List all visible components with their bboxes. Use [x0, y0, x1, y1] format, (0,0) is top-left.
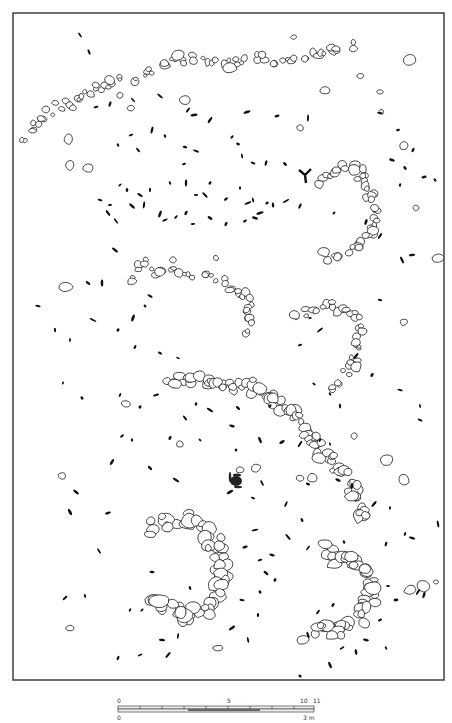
posthole	[229, 424, 235, 428]
posthole	[198, 438, 202, 442]
scattered-stone	[413, 205, 419, 211]
posthole	[157, 93, 163, 99]
scale-label-upper-5: 5	[227, 697, 231, 704]
scattered-stone	[357, 74, 364, 79]
scattered-stone	[249, 377, 256, 382]
wall-stone	[329, 304, 335, 310]
scale-bar-upper	[118, 706, 314, 709]
wall-stone	[334, 380, 341, 386]
posthole	[193, 149, 200, 153]
scattered-stone	[328, 300, 336, 305]
posthole	[236, 142, 241, 146]
posthole	[62, 595, 68, 601]
posthole	[113, 218, 118, 224]
posthole	[251, 197, 254, 202]
posthole	[130, 314, 135, 322]
posthole	[252, 528, 259, 531]
posthole	[116, 143, 120, 147]
wall-stone	[240, 61, 244, 65]
scattered-stone	[400, 319, 407, 325]
posthole	[162, 218, 168, 222]
wall-stone	[174, 269, 183, 278]
scattered-stone	[117, 92, 123, 98]
wall-stone	[118, 78, 122, 81]
scale-label-upper-10: 10	[300, 697, 308, 704]
posthole	[384, 646, 387, 650]
wall-stone	[29, 128, 37, 133]
posthole	[403, 165, 408, 170]
posthole	[284, 501, 289, 508]
southwest-crescent	[144, 509, 233, 626]
scattered-stones-layer	[58, 35, 444, 651]
wall-stone	[356, 314, 362, 320]
posthole	[285, 533, 291, 540]
scattered-stone	[214, 255, 219, 260]
posthole	[176, 356, 180, 359]
posthole	[339, 646, 345, 650]
scale-label-upper-0: 0	[117, 697, 121, 704]
scattered-stone	[400, 142, 408, 150]
posthole	[378, 299, 383, 302]
wall-stone	[51, 113, 55, 117]
posthole	[174, 215, 179, 220]
scattered-stone	[66, 625, 74, 631]
wall-stone	[167, 599, 179, 608]
posthole	[244, 201, 252, 206]
posthole	[257, 613, 260, 617]
posthole	[335, 478, 341, 483]
posthole	[327, 661, 332, 668]
posthole	[329, 442, 332, 446]
posthole	[84, 594, 86, 598]
posthole	[417, 418, 423, 422]
wall-stone	[324, 256, 332, 264]
posthole	[188, 586, 191, 591]
wall-stone	[233, 57, 239, 62]
posthole	[409, 253, 416, 256]
scattered-stone	[297, 125, 304, 131]
wall-stone	[253, 383, 267, 395]
special-features-layer	[229, 169, 311, 488]
wall-stone	[201, 56, 205, 59]
wall-stone	[350, 45, 358, 52]
posthole	[422, 591, 426, 598]
wall-stone	[258, 51, 265, 58]
posthole	[207, 215, 213, 220]
posthole	[135, 147, 140, 153]
posthole	[223, 197, 228, 202]
posthole	[140, 608, 144, 612]
posthole	[297, 440, 303, 447]
posthole	[143, 201, 146, 208]
scale-label-lower-3m: 3 m	[303, 714, 315, 721]
wall-stone	[371, 205, 379, 212]
wall-stone	[289, 311, 299, 319]
posthole	[339, 403, 342, 408]
hearth-feature	[229, 472, 242, 488]
wall-stone	[354, 177, 361, 182]
wall-stone	[202, 272, 208, 278]
posthole	[298, 343, 303, 346]
posthole	[273, 578, 277, 583]
wall-stone	[312, 432, 320, 440]
scattered-stone	[318, 540, 332, 549]
posthole	[168, 435, 172, 440]
wall-stone	[212, 57, 218, 63]
scale-bar: 0 5 10 11 0 3 m	[117, 697, 321, 721]
wall-stone	[345, 249, 353, 255]
posthole	[397, 388, 403, 391]
posthole	[228, 625, 235, 631]
posthole	[436, 520, 439, 527]
posthole	[235, 448, 238, 451]
posthole	[35, 304, 41, 307]
posthole	[191, 223, 196, 225]
wall-stone	[249, 320, 255, 326]
wall-stone	[364, 186, 369, 191]
posthole	[67, 508, 73, 515]
posthole	[138, 405, 142, 409]
posthole	[118, 393, 121, 398]
posthole	[182, 162, 187, 166]
scattered-stone	[252, 464, 261, 472]
posthole	[251, 496, 256, 500]
wall-stone	[217, 534, 225, 542]
scattered-stone	[404, 585, 416, 594]
wall-stone	[344, 468, 352, 475]
